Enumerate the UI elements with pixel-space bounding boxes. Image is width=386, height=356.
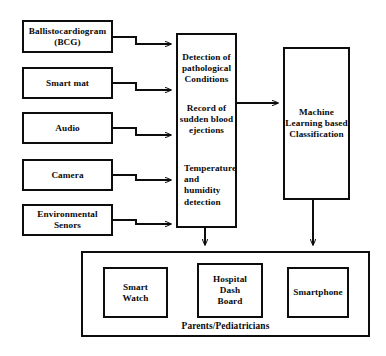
device-label-line1: Smart: [122, 282, 148, 293]
input-label-ballistocardiogram: Ballistocardiogram (BCG): [29, 26, 106, 48]
device-label-line1: Hospital: [213, 274, 247, 285]
processing-block: Detection of pathological Conditions Rec…: [176, 33, 237, 228]
input-node-smart-mat: Smart mat: [22, 67, 113, 99]
system-architecture-diagram: Ballistocardiogram (BCG) Smart mat Audio…: [0, 0, 386, 356]
device-label-line3: Board: [213, 296, 247, 307]
input-node-audio: Audio: [22, 112, 113, 144]
connector-bcg-to-processing: [113, 37, 171, 44]
connector-camera-to-processing: [113, 175, 171, 180]
device-node-smart-watch: Smart Watch: [103, 267, 168, 318]
device-node-smartphone: Smartphone: [287, 267, 349, 318]
output-group-label: Parents/Pediatricians: [83, 321, 368, 332]
input-label-line2: Senors: [37, 220, 97, 231]
input-node-environmental-sensors: Environmental Senors: [22, 204, 113, 236]
input-node-ballistocardiogram: Ballistocardiogram (BCG): [22, 20, 113, 53]
device-node-hospital-dashboard: Hospital Dash Board: [197, 263, 263, 318]
processing-function-pathological-detection: Detection of pathological Conditions: [178, 52, 235, 86]
ml-classification-node: Machine Learning based Classification: [283, 47, 350, 200]
device-label-line2: Dash: [213, 285, 247, 296]
input-label-camera: Camera: [51, 170, 83, 181]
processing-function-blood-ejection-record: Record of sudden blood ejections: [178, 103, 235, 137]
device-label-smart-watch: Smart Watch: [122, 282, 148, 304]
input-node-camera: Camera: [22, 159, 113, 191]
input-label-environmental-sensors: Environmental Senors: [37, 209, 97, 231]
device-label-hospital-dashboard: Hospital Dash Board: [213, 274, 247, 307]
processing-function-temperature-humidity: Temperature and humidity detection: [178, 163, 235, 208]
input-label-line1: Ballistocardiogram: [29, 26, 106, 37]
output-group-container: Smart Watch Hospital Dash Board Smartpho…: [81, 251, 370, 337]
input-label-line2: (BCG): [29, 37, 106, 48]
ml-classification-label: Machine Learning based Classification: [285, 107, 348, 140]
connector-environmental-to-processing: [113, 220, 171, 224]
connector-audio-to-processing: [113, 128, 171, 135]
input-label-audio: Audio: [55, 123, 80, 134]
connector-smart-mat-to-processing: [113, 83, 171, 90]
input-label-line1: Environmental: [37, 209, 97, 220]
device-label-line2: Watch: [122, 293, 148, 304]
input-label-smart-mat: Smart mat: [46, 78, 89, 89]
device-label-smartphone: Smartphone: [293, 287, 343, 298]
